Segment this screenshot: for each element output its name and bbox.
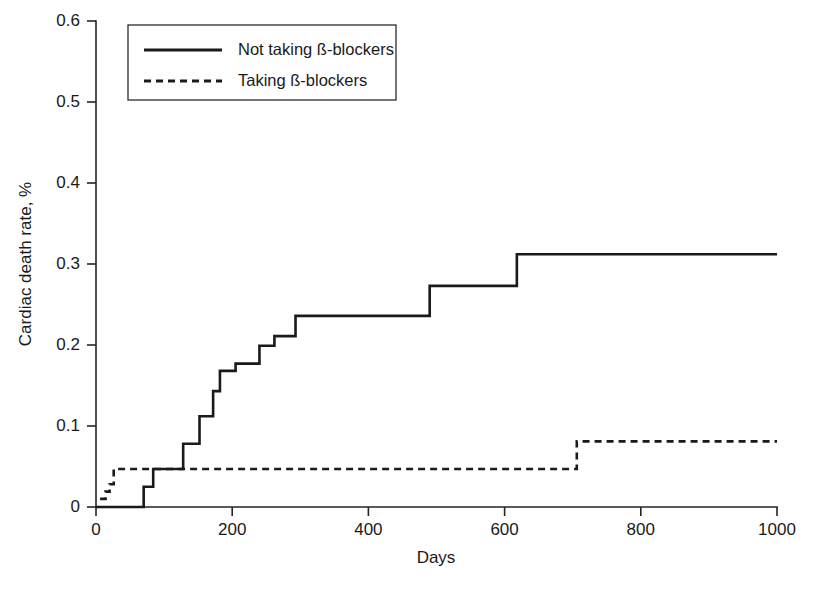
x-tick-label: 600: [490, 520, 518, 539]
legend-label-1: Taking ß-blockers: [238, 71, 367, 89]
x-tick-label: 0: [91, 520, 100, 539]
x-axis-ticks: 02004006008001000: [91, 507, 796, 539]
y-tick-label: 0.1: [56, 416, 80, 435]
legend-label-0: Not taking ß-blockers: [238, 40, 394, 58]
x-tick-label: 200: [218, 520, 246, 539]
y-tick-label: 0.5: [56, 92, 80, 111]
data-series-group: [96, 254, 777, 507]
x-axis: 02004006008001000 Days: [91, 507, 796, 567]
series-taking-beta-blockers: [100, 441, 777, 499]
x-axis-title: Days: [417, 548, 456, 567]
y-tick-label: 0.4: [56, 173, 80, 192]
cardiac-death-rate-chart: 00.10.20.30.40.50.6 Cardiac death rate, …: [0, 0, 814, 592]
y-tick-label: 0.3: [56, 254, 80, 273]
chart-legend: Not taking ß-blockersTaking ß-blockers: [128, 25, 396, 100]
x-tick-label: 800: [627, 520, 655, 539]
y-axis-ticks: 00.10.20.30.40.50.6: [56, 11, 96, 516]
y-tick-label: 0: [71, 497, 80, 516]
y-axis: 00.10.20.30.40.50.6 Cardiac death rate, …: [16, 11, 96, 516]
y-tick-label: 0.2: [56, 335, 80, 354]
chart-canvas: 00.10.20.30.40.50.6 Cardiac death rate, …: [0, 0, 814, 592]
y-axis-title: Cardiac death rate, %: [16, 182, 35, 346]
x-tick-label: 1000: [758, 520, 796, 539]
x-tick-label: 400: [354, 520, 382, 539]
y-tick-label: 0.6: [56, 11, 80, 30]
